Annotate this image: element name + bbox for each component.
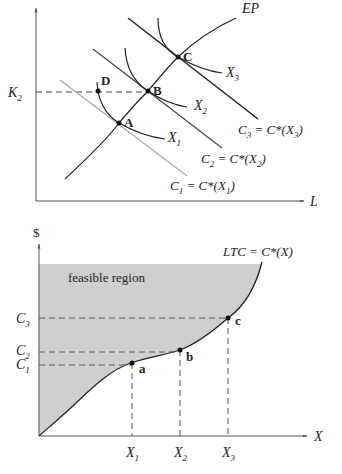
bottom-y-axis-label: $ bbox=[33, 225, 40, 240]
expansion-path-label: EP bbox=[241, 1, 260, 16]
bottom-x-axis-label: X bbox=[313, 429, 323, 444]
isocost-c1-label: C1 = C*(X1) bbox=[170, 178, 235, 196]
k2-label: K2 bbox=[7, 85, 22, 103]
isocost-c2-label: C2 = C*(X2) bbox=[201, 151, 266, 169]
point-a-lower bbox=[130, 361, 135, 366]
point-b-label: B bbox=[153, 83, 162, 98]
isocost-c3-label: C3 = C*(X3) bbox=[238, 122, 303, 140]
top-panel: L K2 EP A B C D X1 X2 X3 C1 = C*(X1) C2 … bbox=[7, 1, 318, 209]
top-x-axis-label: L bbox=[309, 194, 318, 209]
x-tick-x2: X2 bbox=[173, 445, 188, 463]
point-c-lower bbox=[226, 316, 231, 321]
point-b-lower bbox=[178, 348, 183, 353]
y-tick-c3: C3 bbox=[16, 311, 30, 329]
x-tick-x1: X1 bbox=[125, 445, 139, 463]
point-c bbox=[176, 55, 181, 60]
expansion-path bbox=[65, 18, 236, 179]
isocost-line-c2 bbox=[93, 49, 222, 148]
point-a bbox=[117, 121, 122, 126]
x-tick-x3: X3 bbox=[221, 445, 236, 463]
point-b bbox=[146, 89, 151, 94]
bottom-panel: feasible region $ X LTC = C*(X) a b c C3… bbox=[16, 225, 323, 463]
point-c-label: C bbox=[183, 49, 192, 64]
point-a-label: A bbox=[124, 115, 134, 130]
isoquant-x1-label: X1 bbox=[167, 130, 181, 148]
isoquant-x3-label: X3 bbox=[225, 65, 240, 83]
ltc-curve-label: LTC = C*(X) bbox=[222, 244, 293, 259]
point-c-lower-label: c bbox=[235, 313, 241, 328]
point-d-label: D bbox=[101, 73, 110, 88]
isoquant-x2-label: X2 bbox=[193, 98, 208, 116]
diagram-canvas: L K2 EP A B C D X1 X2 X3 C1 = C*(X1) C2 … bbox=[0, 0, 342, 474]
feasible-region bbox=[39, 264, 262, 436]
feasible-region-label: feasible region bbox=[68, 270, 145, 285]
point-a-lower-label: a bbox=[139, 361, 146, 376]
isoquant-x3 bbox=[158, 18, 222, 73]
isocost-line-c3 bbox=[128, 18, 258, 119]
point-d bbox=[96, 89, 101, 94]
point-b-lower-label: b bbox=[186, 349, 193, 364]
